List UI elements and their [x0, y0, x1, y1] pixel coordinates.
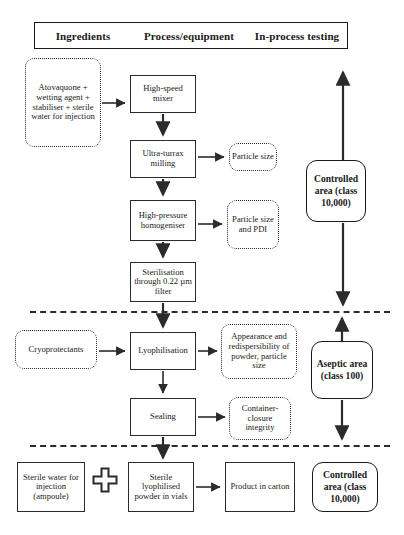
connector-layer: [0, 0, 404, 535]
flowchart-canvas: Ingredients Process/equipment In-process…: [0, 0, 404, 535]
